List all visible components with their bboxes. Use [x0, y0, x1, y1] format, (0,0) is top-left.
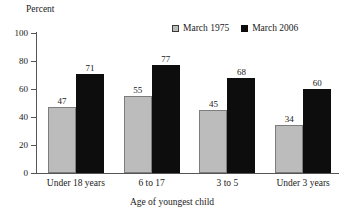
y-axis-tick-label: 0	[2, 169, 28, 178]
x-axis-category-label: Under 18 years	[47, 178, 105, 189]
bar-group: 5577	[124, 33, 180, 173]
y-axis-tick	[31, 173, 36, 174]
bar-march-1975: 55	[124, 96, 152, 173]
bar-march-1975: 47	[48, 107, 76, 173]
legend-swatch-icon-march-1975	[172, 25, 179, 32]
bar-value-label: 55	[133, 85, 142, 95]
y-axis-tick-label: 20	[2, 141, 28, 150]
bar-march-2006: 60	[303, 89, 331, 173]
x-axis-category-label: 6 to 17	[138, 178, 164, 189]
bar-value-label: 71	[85, 63, 94, 73]
bar-value-label: 68	[237, 67, 246, 77]
y-axis-tick-label: 40	[2, 113, 28, 122]
x-axis-line	[36, 173, 339, 174]
bar-march-1975: 45	[199, 110, 227, 173]
bar-march-1975: 34	[275, 125, 303, 173]
bar-march-2006: 71	[76, 74, 104, 173]
bar-group: 4771	[48, 33, 104, 173]
y-axis-title: Percent	[26, 4, 55, 15]
y-axis-tick-label: 100	[2, 29, 28, 38]
bar-group: 3460	[275, 33, 331, 173]
plot-area: 4771557745683460	[36, 33, 339, 173]
bar-march-2006: 68	[227, 78, 255, 173]
bar-value-label: 47	[57, 96, 66, 106]
bar-group: 4568	[199, 33, 255, 173]
y-axis-tick-label: 60	[2, 85, 28, 94]
x-axis-category-label: 3 to 5	[217, 178, 239, 189]
bar-value-label: 77	[161, 54, 170, 64]
bar-chart: Percent March 1975 March 2006 0204060801…	[0, 0, 344, 219]
legend-swatch-icon-march-2006	[241, 25, 248, 32]
bar-value-label: 34	[285, 114, 294, 124]
y-axis-tick-label: 80	[2, 57, 28, 66]
x-axis-category-label: Under 3 years	[276, 178, 329, 189]
bar-march-2006: 77	[152, 65, 180, 173]
x-axis-title: Age of youngest child	[0, 197, 344, 208]
bar-value-label: 60	[313, 78, 322, 88]
bar-value-label: 45	[209, 99, 218, 109]
